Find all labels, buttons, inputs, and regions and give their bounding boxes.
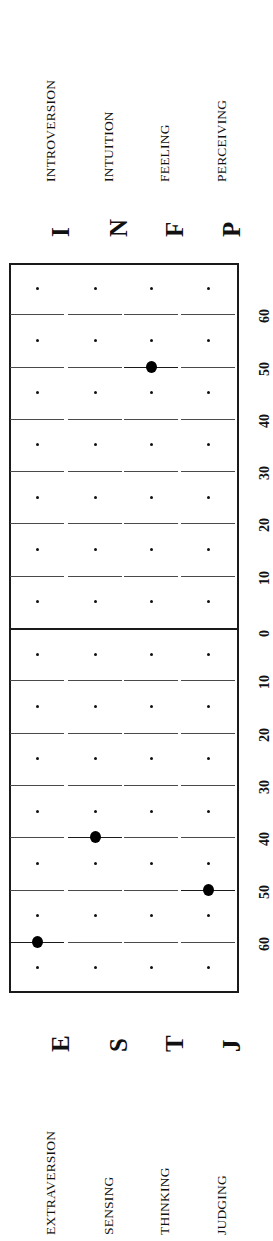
grid-tick: [181, 471, 235, 472]
grid-tick: [181, 942, 235, 943]
axis-tick-label: 10: [258, 675, 272, 689]
minor-tick-dot: [207, 496, 210, 499]
grid-tick: [124, 523, 178, 524]
minor-tick-dot: [150, 496, 153, 499]
grid-tick: [10, 680, 64, 681]
grid-tick: [10, 523, 64, 524]
minor-tick-dot: [36, 287, 39, 290]
minor-tick-dot: [150, 653, 153, 656]
minor-tick-dot: [36, 391, 39, 394]
grid-tick: [68, 785, 122, 786]
pole-letter-j: J: [219, 1040, 244, 1053]
minor-tick-dot: [94, 757, 97, 760]
grid-tick: [10, 890, 64, 891]
grid-tick: [181, 419, 235, 420]
pole-name-judging: JUDGING: [215, 1175, 229, 1235]
grid-tick: [124, 785, 178, 786]
grid-tick: [68, 890, 122, 891]
grid-tick: [68, 314, 122, 315]
grid-tick: [10, 367, 64, 368]
minor-tick-dot: [94, 548, 97, 551]
zero-center-line: [9, 628, 239, 630]
grid-tick: [124, 942, 178, 943]
minor-tick-dot: [150, 757, 153, 760]
minor-tick-dot: [150, 705, 153, 708]
minor-tick-dot: [207, 757, 210, 760]
axis-tick-label: 20: [258, 518, 272, 532]
pole-letter-i: I: [48, 227, 73, 237]
pole-name-intuition: INTUITION: [102, 111, 116, 182]
grid-tick: [124, 419, 178, 420]
minor-tick-dot: [150, 339, 153, 342]
data-point-t-f[interactable]: [146, 361, 157, 373]
grid-tick: [10, 471, 64, 472]
grid-tick: [68, 576, 122, 577]
pole-letter-e: E: [48, 1035, 73, 1052]
axis-tick-label: 20: [258, 728, 272, 742]
axis-tick-label: 30: [258, 466, 272, 480]
minor-tick-dot: [36, 705, 39, 708]
grid-tick: [68, 733, 122, 734]
minor-tick-dot: [36, 548, 39, 551]
grid-tick: [68, 680, 122, 681]
minor-tick-dot: [150, 862, 153, 865]
minor-tick-dot: [150, 914, 153, 917]
axis-tick-label: 50: [258, 885, 272, 899]
grid-tick: [181, 576, 235, 577]
mbti-profile-chart: INTROVERSION INTUITION FEELING PERCEIVIN…: [0, 0, 273, 1241]
minor-tick-dot: [94, 705, 97, 708]
minor-tick-dot: [94, 810, 97, 813]
axis-tick-label: 40: [258, 832, 272, 846]
data-point-s-n[interactable]: [90, 831, 101, 843]
minor-tick-dot: [36, 810, 39, 813]
minor-tick-dot: [207, 705, 210, 708]
pole-letter-p: P: [219, 222, 244, 237]
grid-tick: [181, 680, 235, 681]
pole-name-perceiving: PERCEIVING: [215, 100, 229, 182]
minor-tick-dot: [36, 757, 39, 760]
grid-tick: [68, 419, 122, 420]
axis-tick-label: 50: [258, 362, 272, 376]
grid-tick: [10, 733, 64, 734]
grid-tick: [181, 523, 235, 524]
grid-tick: [10, 576, 64, 577]
data-point-j-p[interactable]: [203, 884, 214, 896]
minor-tick-dot: [94, 391, 97, 394]
minor-tick-dot: [36, 914, 39, 917]
grid-tick: [10, 314, 64, 315]
grid-tick: [10, 419, 64, 420]
minor-tick-dot: [207, 810, 210, 813]
minor-tick-dot: [94, 287, 97, 290]
grid-tick: [68, 367, 122, 368]
minor-tick-dot: [207, 653, 210, 656]
minor-tick-dot: [94, 862, 97, 865]
grid-tick: [124, 471, 178, 472]
grid-tick: [124, 680, 178, 681]
minor-tick-dot: [36, 496, 39, 499]
grid-tick: [181, 837, 235, 838]
grid-tick: [68, 523, 122, 524]
axis-tick-label: 30: [258, 780, 272, 794]
pole-letter-n: N: [106, 219, 131, 237]
minor-tick-dot: [94, 339, 97, 342]
pole-name-sensing: SENSING: [102, 1177, 116, 1235]
grid-tick: [124, 733, 178, 734]
grid-tick: [124, 890, 178, 891]
minor-tick-dot: [36, 339, 39, 342]
minor-tick-dot: [150, 548, 153, 551]
minor-tick-dot: [36, 862, 39, 865]
minor-tick-dot: [94, 914, 97, 917]
grid-tick: [68, 471, 122, 472]
pole-name-thinking: THINKING: [158, 1167, 172, 1235]
minor-tick-dot: [94, 653, 97, 656]
data-point-e-i[interactable]: [32, 936, 43, 948]
pole-letter-s: S: [106, 1038, 131, 1052]
axis-tick-label: 40: [258, 414, 272, 428]
grid-tick: [124, 837, 178, 838]
pole-letter-f: F: [162, 222, 187, 237]
axis-tick-label: 60: [258, 309, 272, 323]
grid-tick: [181, 785, 235, 786]
minor-tick-dot: [207, 862, 210, 865]
minor-tick-dot: [207, 391, 210, 394]
grid-tick: [124, 576, 178, 577]
